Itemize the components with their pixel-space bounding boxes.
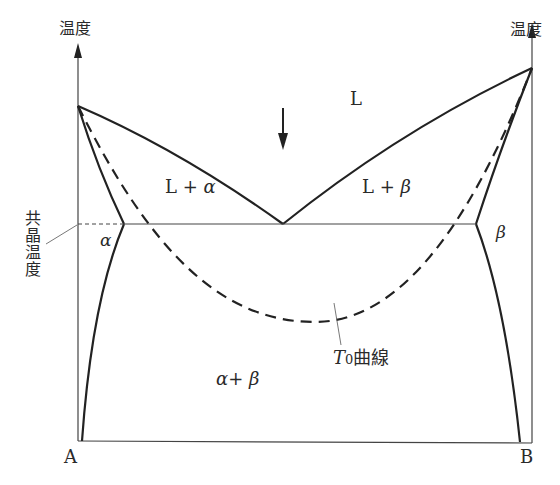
t0-leader-line [334, 303, 341, 345]
component-a-label: A [64, 448, 77, 466]
solvus-left [82, 224, 124, 441]
phase-diagram [0, 0, 560, 485]
t0-curve-label: T0曲線 [333, 349, 389, 367]
right-axis-label: 温度 [510, 22, 542, 38]
left-axis-label: 温度 [59, 21, 91, 37]
region-alpha: α [100, 232, 111, 249]
region-beta: β [496, 224, 506, 241]
liquidus-left [78, 106, 283, 224]
composition-axis [78, 441, 532, 443]
solvus-right [476, 224, 520, 442]
eutectic-leader-line [46, 225, 77, 244]
t0-curve [78, 68, 532, 322]
eutectic-temperature-label: 共晶温度 [23, 210, 39, 278]
cooling-arrow-icon [278, 133, 288, 150]
liquidus-right [283, 68, 532, 224]
region-liquid-alpha: L + α [165, 178, 216, 196]
region-liquid: L [350, 90, 362, 108]
left-axis-arrow-icon [74, 43, 82, 58]
component-b-label: B [520, 448, 533, 466]
region-liquid-beta: L + β [362, 178, 411, 196]
region-alpha-beta: α+ β [216, 370, 259, 388]
